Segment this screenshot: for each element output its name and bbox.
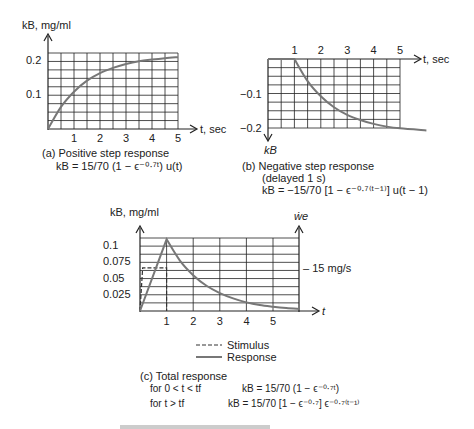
plot-c-eq1-condition: for 0 < t < tf xyxy=(150,383,201,394)
x-tick-label: 4 xyxy=(243,315,249,327)
plot-b-caption: (b) Negative step response xyxy=(242,160,374,172)
y-tick-label: 0.1 xyxy=(103,239,118,251)
y-tick-label: 0.075 xyxy=(103,255,131,267)
plot-b-ticks: 12345−0.1−0.2 xyxy=(240,44,403,134)
plot-a: kB, mg/ml t, sec 123450.10.2 (a) Positiv… xyxy=(22,19,227,172)
x-tick-label: 3 xyxy=(344,44,350,56)
x-tick-label: 4 xyxy=(371,44,377,56)
plot-b-grid xyxy=(268,59,400,128)
y-tick-label: 0.1 xyxy=(26,88,41,100)
plot-b-equation: kB = −15/70 [1 − ϵ⁻⁰·⁷⁽ᵗ⁻¹⁾] u(t − 1) xyxy=(262,184,428,196)
plot-c-annotation: – 15 mg/s xyxy=(303,262,352,274)
plot-c-eq1: kB = 15/70 (1 − ϵ⁻⁰·⁷ᵗ) xyxy=(242,383,339,394)
plot-a-ticks: 123450.10.2 xyxy=(26,54,181,144)
x-tick-label: 1 xyxy=(291,44,297,56)
y-tick-label: 0.025 xyxy=(103,288,131,300)
plot-c-ylabel-right: ẇe xyxy=(294,210,308,222)
plot-a-grid xyxy=(48,53,178,129)
plot-a-caption: (a) Positive step response xyxy=(42,147,169,159)
plot-c: kB, mg/ml ẇe t – 15 mg/s 123450.0250.050… xyxy=(103,206,352,327)
plot-b-ylabel: kB xyxy=(264,144,277,156)
legend-response: Response xyxy=(227,351,277,363)
figure: kB, mg/ml t, sec 123450.10.2 (a) Positiv… xyxy=(0,0,474,429)
plot-c-caption: (c) Total response xyxy=(140,370,227,382)
plot-c-eq2: kB = 15/70 [1 − ϵ⁻⁰·⁷] ϵ⁻⁰·⁷⁽ᵗ⁻¹⁾ xyxy=(228,398,359,409)
x-tick-label: 2 xyxy=(190,315,196,327)
x-tick-label: 1 xyxy=(71,132,77,144)
x-tick-label: 3 xyxy=(217,315,223,327)
plot-a-ylabel: kB, mg/ml xyxy=(22,19,71,31)
plot-b-caption2: (delayed 1 s) xyxy=(262,172,326,184)
plot-c-ticks: 123450.0250.050.0750.1 xyxy=(103,239,276,327)
y-tick-label: 0.2 xyxy=(26,54,41,66)
legend-stimulus: Stimulus xyxy=(227,339,270,351)
y-tick-label: −0.1 xyxy=(240,88,262,100)
plot-c-ylabel: kB, mg/ml xyxy=(110,206,159,218)
x-tick-label: 5 xyxy=(397,44,403,56)
legend: Stimulus Response xyxy=(196,339,277,363)
x-tick-label: 3 xyxy=(123,132,129,144)
plot-b-xlabel: t, sec xyxy=(423,53,450,65)
x-tick-label: 5 xyxy=(270,315,276,327)
plot-a-equation: kB = 15/70 (1 − ϵ⁻⁰·⁷ᵗ) u(t) xyxy=(56,160,182,172)
plot-c-eq2-condition: for t > tf xyxy=(150,398,184,409)
x-tick-label: 2 xyxy=(318,44,324,56)
cut-off-figure-caption xyxy=(120,425,270,429)
plot-a-xlabel: t, sec xyxy=(200,123,227,135)
x-tick-label: 2 xyxy=(97,132,103,144)
plot-b: t, sec kB 12345−0.1−0.2 (b) Negative ste… xyxy=(240,44,450,196)
x-tick-label: 1 xyxy=(164,315,170,327)
x-tick-label: 5 xyxy=(175,132,181,144)
plot-c-xlabel: t xyxy=(322,305,326,317)
x-tick-label: 4 xyxy=(149,132,155,144)
y-tick-label: 0.05 xyxy=(103,272,124,284)
y-tick-label: −0.2 xyxy=(240,122,262,134)
